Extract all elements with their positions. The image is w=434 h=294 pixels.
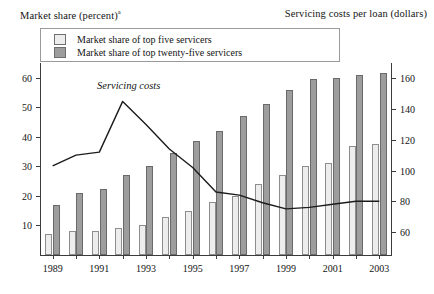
x-axis-tick-label: 1995 [183,263,203,274]
y-axis-tick-label: 50 [22,102,32,113]
legend-label-twentyfive: Market share of top twenty-five servicer… [77,47,242,58]
left-axis-title-text: Market share (percent) [20,10,118,21]
x-axis-tick [99,255,100,259]
x-axis-tick-label: 2003 [369,263,389,274]
y2-axis-tick [391,78,396,79]
x-axis-tick-label: 2001 [323,263,343,274]
chart-legend: Market share of top five servicers Marke… [40,28,340,62]
x-axis-tick-label: 1989 [43,263,63,274]
y-axis-tick-label: 20 [22,190,32,201]
legend-swatch-twentyfive [54,47,66,58]
x-axis-tick [286,255,287,259]
legend-item-twentyfive: Market share of top twenty-five servicer… [54,46,242,58]
y2-axis-tick-label: 160 [400,73,415,84]
x-axis-tick [333,255,334,259]
x-axis-tick [123,255,124,259]
x-axis-tick [53,255,54,259]
y2-axis-tick-label: 140 [400,104,415,115]
y-axis-tick-label: 10 [22,220,32,231]
left-axis-title-superscript: a [118,8,121,15]
x-axis-tick [356,255,357,259]
y2-axis-tick-label: 120 [400,134,415,145]
legend-swatch-five [54,34,66,45]
x-axis-tick [193,255,194,259]
y-axis-tick-label: 60 [22,72,32,83]
x-axis-tick-label: 1999 [276,263,296,274]
y2-axis-tick [391,109,396,110]
x-axis-tick [263,255,264,259]
servicing-costs-line [53,101,380,209]
servicing-costs-line-layer [41,63,391,255]
y2-axis-tick [391,140,396,141]
x-axis-tick-label: 1997 [229,263,249,274]
plot-area: 1020304050606080100120140160198919911993… [40,63,392,256]
y2-axis-tick-label: 80 [400,196,410,207]
x-axis-tick [239,255,240,259]
y-axis-tick-label: 40 [22,131,32,142]
x-axis-tick-label: 1991 [89,263,109,274]
right-axis-title: Servicing costs per loan (dollars) [285,8,427,19]
legend-label-five: Market share of top five servicers [77,34,212,45]
x-axis-tick [146,255,147,259]
x-axis-tick-label: 1993 [136,263,156,274]
x-axis-tick [76,255,77,259]
y2-axis-tick-label: 100 [400,165,415,176]
y2-axis-tick [391,232,396,233]
chart-container: Market share (percent)a Servicing costs … [0,0,434,294]
y2-axis-tick [391,171,396,172]
servicing-costs-annotation: Servicing costs [97,79,160,90]
x-axis-tick [169,255,170,259]
y-axis-tick-label: 30 [22,161,32,172]
x-axis-tick [216,255,217,259]
left-axis-title: Market share (percent)a [20,8,121,21]
legend-item-five: Market share of top five servicers [54,33,212,45]
x-axis-tick [379,255,380,259]
x-axis-tick [309,255,310,259]
y2-axis-tick-label: 60 [400,226,410,237]
y2-axis-tick [391,201,396,202]
